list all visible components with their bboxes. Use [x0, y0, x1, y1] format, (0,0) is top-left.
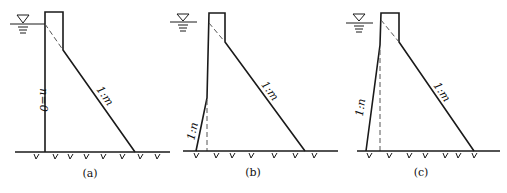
panel-b: 1:n 1:m (b): [170, 13, 338, 179]
basic-triangle-line-b: [209, 23, 225, 42]
gravity-dam-profiles-figure: n=0 1:m (a) 1:n 1:m (b): [0, 0, 507, 193]
caption-a: (a): [82, 167, 97, 180]
caption-c: (c): [414, 166, 429, 179]
foundation-hatch-b: [194, 153, 317, 158]
basic-triangle-line-c: [381, 20, 399, 42]
dam-outline-c: [366, 13, 474, 151]
upstream-slope-label-a: n=0: [37, 88, 50, 111]
foundation-hatch-a: [34, 154, 160, 159]
panel-a: n=0 1:m (a): [10, 12, 170, 180]
water-level-icon: [346, 14, 373, 32]
caption-b: (b): [245, 166, 261, 179]
water-level-icon: [10, 15, 45, 33]
panel-c: 1:n 1:m (c): [346, 13, 500, 179]
figure-svg: n=0 1:m (a) 1:n 1:m (b): [0, 0, 507, 193]
downstream-slope-label-b: 1:m: [258, 79, 281, 104]
foundation-hatch-c: [367, 153, 477, 158]
basic-triangle-line-a: [45, 24, 63, 50]
dam-outline-b: [196, 13, 305, 151]
dam-outline-a: [45, 12, 135, 152]
downstream-slope-label-a: 1:m: [93, 84, 116, 109]
water-level-icon: [170, 14, 197, 31]
upstream-slope-label-c: 1:n: [353, 98, 368, 117]
